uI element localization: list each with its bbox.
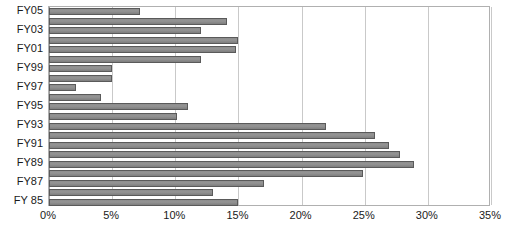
y-tick-label: FY91 (17, 138, 43, 149)
y-tick-label: FY 85 (14, 195, 43, 206)
bar-row (49, 64, 491, 74)
x-tick-label: 30% (416, 209, 438, 221)
bar-chart: FY05FY03FY01FY99FY97FY95FY93FY91FY89FY87… (0, 0, 514, 240)
bar-FY95 (49, 103, 188, 110)
bar-row (49, 131, 491, 141)
bar-row (49, 150, 491, 160)
bar-FY85 (49, 199, 238, 206)
bar-FY98 (49, 75, 112, 82)
x-tick-label: 5% (103, 209, 119, 221)
bar-row (49, 93, 491, 103)
gridline-35% (491, 7, 492, 205)
plot-area (48, 6, 490, 206)
x-axis: 0%5%10%15%20%25%30%35% (48, 209, 490, 229)
bar-FY89 (49, 161, 414, 168)
bar-row (49, 45, 491, 55)
x-tick-label: 35% (479, 209, 501, 221)
bar-FY03 (49, 27, 201, 34)
x-tick-label: 0% (40, 209, 56, 221)
bar-row (49, 26, 491, 36)
bar-row (49, 140, 491, 150)
y-tick-label: FY89 (17, 157, 43, 168)
bar-row (49, 159, 491, 169)
x-tick-label: 10% (163, 209, 185, 221)
bar-FY97 (49, 84, 76, 91)
bars-layer (49, 7, 489, 205)
bar-row (49, 197, 491, 207)
bar-FY90 (49, 151, 400, 158)
bar-FY00 (49, 56, 201, 63)
y-tick-label: FY95 (17, 100, 43, 111)
x-tick-label: 20% (290, 209, 312, 221)
y-tick-label: FY93 (17, 119, 43, 130)
bar-FY01 (49, 46, 236, 53)
bar-FY93 (49, 123, 326, 130)
bar-row (49, 178, 491, 188)
y-tick-label: FY05 (17, 5, 43, 16)
bar-row (49, 102, 491, 112)
bar-row (49, 7, 491, 17)
x-tick-label: 25% (353, 209, 375, 221)
bar-FY88 (49, 170, 363, 177)
bar-row (49, 17, 491, 27)
bar-FY86 (49, 189, 213, 196)
bar-row (49, 36, 491, 46)
bar-FY96 (49, 94, 101, 101)
bar-FY94 (49, 113, 177, 120)
bar-FY92 (49, 132, 375, 139)
bar-row (49, 55, 491, 65)
y-tick-label: FY01 (17, 43, 43, 54)
y-tick-label: FY99 (17, 62, 43, 73)
y-tick-label: FY87 (17, 176, 43, 187)
bar-row (49, 188, 491, 198)
y-tick-label: FY03 (17, 24, 43, 35)
bar-FY04 (49, 18, 227, 25)
bar-row (49, 169, 491, 179)
bar-FY05 (49, 8, 140, 15)
bar-FY02 (49, 37, 238, 44)
bar-row (49, 112, 491, 122)
bar-FY91 (49, 142, 389, 149)
y-tick-label: FY97 (17, 81, 43, 92)
bar-FY87 (49, 180, 264, 187)
y-axis: FY05FY03FY01FY99FY97FY95FY93FY91FY89FY87… (0, 6, 46, 206)
bar-row (49, 121, 491, 131)
bar-row (49, 83, 491, 93)
bar-FY99 (49, 65, 112, 72)
x-tick-label: 15% (226, 209, 248, 221)
bar-row (49, 74, 491, 84)
